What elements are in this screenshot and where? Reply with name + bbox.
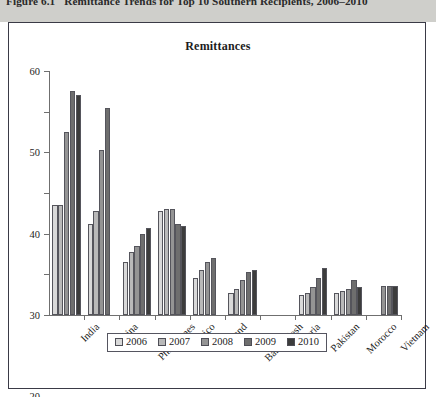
- bar: [164, 209, 169, 315]
- bar: [76, 95, 81, 315]
- legend-item[interactable]: 2009: [244, 337, 276, 348]
- bar: [158, 211, 163, 315]
- bar: [205, 262, 210, 315]
- legend-label: 2006: [126, 337, 147, 348]
- legend-swatch: [244, 338, 252, 346]
- legend-item[interactable]: 2006: [115, 337, 147, 348]
- bar: [322, 268, 327, 315]
- bar: [305, 293, 310, 315]
- bar: [140, 234, 145, 315]
- bar: [310, 287, 315, 315]
- bar: [123, 262, 128, 315]
- bar-group: [88, 71, 116, 315]
- x-tick: [401, 315, 402, 320]
- bar-group: [299, 71, 327, 315]
- x-tick: [260, 315, 261, 320]
- y-tick: 10: [44, 274, 49, 275]
- figure-caption-bar: Figure 6.1Remittance Trends for Top 10 S…: [0, 0, 436, 22]
- bar: [99, 150, 104, 315]
- legend-swatch: [287, 338, 295, 346]
- bar: [234, 289, 239, 315]
- bar-group: [123, 71, 151, 315]
- category-label: Pakistan: [328, 321, 361, 354]
- legend-label: 2010: [298, 337, 319, 348]
- bar: [193, 278, 198, 315]
- legend-item[interactable]: 2007: [158, 337, 190, 348]
- y-tick: 0: [44, 315, 49, 316]
- chart-legend: 20062007200820092010: [107, 333, 327, 352]
- bar: [181, 226, 186, 315]
- y-axis-line: [49, 71, 50, 315]
- bar: [381, 286, 386, 315]
- bar: [387, 286, 392, 315]
- bar: [93, 211, 98, 315]
- y-tick: 30: [44, 193, 49, 194]
- y-tick-label: 20: [30, 391, 41, 397]
- bar-group: [228, 71, 256, 315]
- bar: [340, 291, 345, 315]
- bar: [299, 295, 304, 315]
- bar: [252, 270, 257, 315]
- bar: [134, 246, 139, 315]
- bar: [88, 224, 93, 316]
- x-tick: [119, 315, 120, 320]
- bar: [211, 258, 216, 315]
- y-tick-label: 50: [30, 147, 41, 158]
- bar: [199, 270, 204, 315]
- y-tick: 60: [44, 71, 49, 72]
- y-tick: 20: [44, 234, 49, 235]
- bar: [175, 224, 180, 316]
- bar-group: [193, 71, 221, 315]
- bar: [392, 286, 397, 315]
- bar: [105, 108, 110, 315]
- bar: [334, 293, 339, 315]
- bar: [357, 287, 362, 315]
- x-tick: [366, 315, 367, 320]
- x-tick: [295, 315, 296, 320]
- x-tick: [155, 315, 156, 320]
- x-tick: [84, 315, 85, 320]
- x-tick: [331, 315, 332, 320]
- legend-label: 2007: [169, 337, 190, 348]
- figure-caption: Figure 6.1Remittance Trends for Top 10 S…: [6, 0, 368, 7]
- legend-item[interactable]: 2008: [201, 337, 233, 348]
- bar-group: [158, 71, 186, 315]
- bar: [240, 280, 245, 315]
- bar: [58, 205, 63, 315]
- bar-group: [264, 71, 292, 315]
- bar: [316, 278, 321, 315]
- y-tick-label: 40: [30, 228, 41, 239]
- y-tick-label: 30: [30, 310, 41, 321]
- figure-page: Figure 6.1Remittance Trends for Top 10 S…: [0, 0, 436, 397]
- category-label: Vietnam: [399, 321, 432, 354]
- bar-group: [369, 71, 397, 315]
- bar: [129, 252, 134, 315]
- x-tick: [225, 315, 226, 320]
- legend-label: 2009: [255, 337, 276, 348]
- bar: [228, 293, 233, 315]
- category-label: Morocco: [364, 321, 399, 356]
- bar: [346, 289, 351, 315]
- bar: [146, 228, 151, 315]
- bar: [70, 91, 75, 315]
- bar: [170, 209, 175, 315]
- plot-area: 0102030405060 IndiaChinaPhilippinesMexic…: [49, 71, 401, 315]
- bar: [351, 280, 356, 315]
- legend-swatch: [158, 338, 166, 346]
- category-label: India: [78, 321, 101, 344]
- legend-swatch: [201, 338, 209, 346]
- bar: [52, 205, 57, 315]
- x-tick: [190, 315, 191, 320]
- legend-item[interactable]: 2010: [287, 337, 319, 348]
- bar-group: [334, 71, 362, 315]
- legend-label: 2008: [212, 337, 233, 348]
- figure-frame: Remittances 0102030405060 IndiaChinaPhil…: [8, 22, 426, 389]
- y-tick: 50: [44, 112, 49, 113]
- legend-swatch: [115, 338, 123, 346]
- y-tick: 40: [44, 152, 49, 153]
- bar: [64, 132, 69, 315]
- y-tick-label: 60: [30, 66, 41, 77]
- chart-title: Remittances: [9, 39, 427, 54]
- bar-group: [52, 71, 80, 315]
- figure-number: Figure 6.1: [6, 0, 55, 7]
